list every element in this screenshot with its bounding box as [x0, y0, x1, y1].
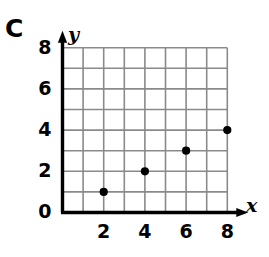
y-axis-arrowhead — [58, 31, 67, 43]
y-tick-label: 2 — [30, 161, 52, 180]
y-tick-label: 6 — [30, 79, 52, 98]
x-tick-label: 2 — [94, 222, 114, 241]
y-axis-label: y — [68, 25, 79, 44]
data-point — [223, 126, 231, 134]
gridlines — [63, 48, 228, 213]
data-point — [182, 147, 190, 155]
y-tick-label: 4 — [30, 120, 52, 139]
y-tick-label: 8 — [30, 38, 52, 57]
worksheet-figure: C y x 246824680 — [0, 0, 269, 257]
data-point — [100, 188, 108, 196]
data-point — [141, 167, 149, 175]
x-axis-label: x — [246, 196, 257, 215]
axes — [58, 31, 248, 217]
x-tick-label: 6 — [176, 222, 196, 241]
x-tick-label: 4 — [135, 222, 155, 241]
origin-label: 0 — [30, 202, 52, 221]
x-tick-label: 8 — [217, 222, 237, 241]
